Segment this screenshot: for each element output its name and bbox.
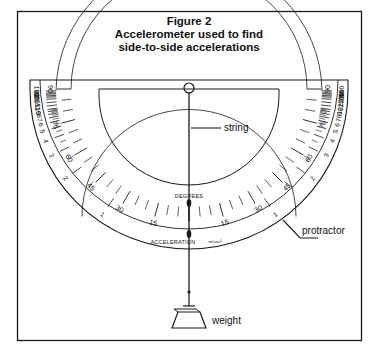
degree-number-left-90: 90 <box>46 85 55 93</box>
degree-number-right-90: 90 <box>323 85 332 93</box>
accelerometer-diagram: Figure 2 Accelerometer used to find side… <box>0 0 379 357</box>
weight-label: weight <box>211 315 241 326</box>
callout-weight: weight <box>211 315 241 326</box>
acceleration-scale-label: ACCELERATION <box>150 239 195 245</box>
degrees-scale-label: DEGREES <box>175 193 204 199</box>
acceleration-number-left-100: 100 <box>33 86 40 97</box>
acceleration-unit-label: m/sec² <box>208 239 222 244</box>
title-line-1: Figure 2 <box>167 15 212 27</box>
acceleration-pointer-marker <box>187 230 192 238</box>
acceleration-number-right-100: 100 <box>338 85 345 96</box>
figure-container: Figure 2 Accelerometer used to find side… <box>0 0 379 357</box>
string-label: string <box>224 122 248 133</box>
title-line-2: Accelerometer used to find <box>115 28 263 40</box>
protractor-label: protractor <box>302 225 345 236</box>
title-line-3: side-to-side accelerations <box>118 41 259 53</box>
degree-pointer-marker <box>187 199 192 207</box>
